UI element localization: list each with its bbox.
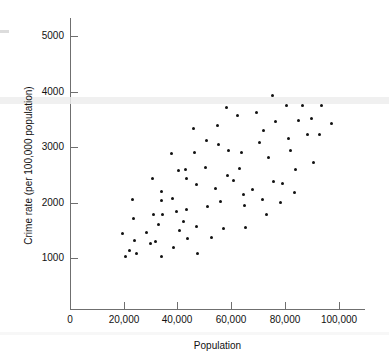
scatter-point [271, 94, 274, 97]
scatter-point [238, 167, 241, 170]
scatter-point [255, 111, 258, 114]
scatter-point [185, 177, 188, 180]
scatter-point [216, 124, 219, 127]
scatter-point [151, 177, 154, 180]
x-axis-title: Population [70, 340, 365, 351]
scatter-point [195, 225, 198, 228]
scatter-point [294, 168, 297, 171]
scatter-point [226, 174, 229, 177]
scatter-point [310, 117, 313, 120]
scatter-point [227, 149, 230, 152]
scatter-point [121, 232, 124, 235]
scatter-point [222, 227, 225, 230]
scatter-point [261, 198, 264, 201]
scatter-point [281, 182, 284, 185]
scatter-point [177, 169, 180, 172]
scatter-plot-figure: 10002000300040005000 020,00040,00060,000… [0, 0, 389, 363]
scatter-point [272, 180, 275, 183]
scatter-point [240, 151, 243, 154]
scatter-point [192, 127, 195, 130]
scatter-point [232, 179, 235, 182]
scatter-point [131, 198, 134, 201]
scatter-point [219, 200, 222, 203]
scatter-point [217, 143, 220, 146]
scatter-point [182, 220, 185, 223]
scatter-point [301, 104, 304, 107]
scatter-point [242, 193, 245, 196]
scatter-point [161, 213, 164, 216]
scatter-point [160, 255, 163, 258]
scatter-point [204, 166, 207, 169]
scatter-point [152, 213, 155, 216]
scatter-point [210, 236, 213, 239]
scatter-point [195, 183, 198, 186]
scatter-point [160, 190, 163, 193]
data-point-layer [0, 0, 389, 363]
scatter-point [251, 188, 254, 191]
scatter-point [265, 213, 268, 216]
scatter-point [225, 106, 228, 109]
scatter-point [262, 129, 265, 132]
scatter-point [175, 210, 178, 213]
scatter-point [258, 141, 261, 144]
scatter-point [170, 152, 173, 155]
scatter-point [214, 187, 217, 190]
scatter-point [186, 237, 189, 240]
scatter-point [279, 201, 282, 204]
scatter-point [154, 240, 157, 243]
scatter-point [132, 217, 135, 220]
scatter-point [157, 223, 160, 226]
scatter-point [160, 199, 163, 202]
scatter-point [297, 119, 300, 122]
scatter-point [171, 197, 174, 200]
y-axis-title: Crime rate (per 100,000 population) [23, 41, 34, 291]
scatter-point [285, 104, 288, 107]
scatter-point [236, 114, 239, 117]
scatter-point [293, 191, 296, 194]
scatter-point [306, 133, 309, 136]
scatter-point [287, 137, 290, 140]
scatter-point [124, 255, 127, 258]
scatter-point [244, 226, 247, 229]
scatter-point [205, 139, 208, 142]
scatter-point [196, 252, 199, 255]
scatter-point [178, 229, 181, 232]
scatter-point [145, 231, 148, 234]
scatter-point [185, 208, 188, 211]
scatter-point [318, 133, 321, 136]
scatter-point [243, 204, 246, 207]
scatter-point [274, 120, 277, 123]
scatter-point [135, 252, 138, 255]
scatter-point [193, 151, 196, 154]
scatter-point [206, 205, 209, 208]
scatter-point [149, 242, 152, 245]
scatter-point [172, 246, 175, 249]
scatter-point [320, 104, 323, 107]
scatter-point [133, 239, 136, 242]
scatter-point [312, 161, 315, 164]
scatter-point [184, 168, 187, 171]
scatter-point [330, 122, 333, 125]
scatter-point [267, 156, 270, 159]
scatter-point [128, 249, 131, 252]
scatter-point [289, 149, 292, 152]
